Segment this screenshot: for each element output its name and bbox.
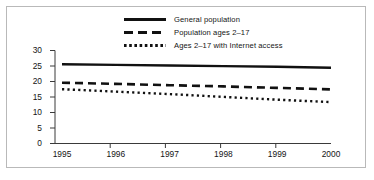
- x-tick-label-1996: 1996: [99, 149, 133, 159]
- x-tick-label-1997: 1997: [153, 149, 187, 159]
- series-population-ages-2-17-line: [62, 83, 331, 90]
- x-tick-label-2000: 2000: [314, 149, 348, 159]
- y-tick-label-5: 5: [22, 123, 42, 133]
- dotted-line-swatch: [124, 40, 166, 51]
- legend-label-population-ages-2-17: Population ages 2–17: [174, 28, 249, 37]
- y-tick-label-0: 0: [22, 138, 42, 148]
- y-tick-label-15: 15: [22, 92, 42, 102]
- y-tick-label-10: 10: [22, 107, 42, 117]
- y-tick-label-20: 20: [22, 76, 42, 86]
- y-tick-label-25: 25: [22, 61, 42, 71]
- x-tick-label-1998: 1998: [206, 149, 240, 159]
- chart-figure: 30 25 20 15 10 5 0 1995 1996 1997 1998 1…: [0, 0, 374, 180]
- y-tick-label-30: 30: [22, 45, 42, 55]
- dashed-line-swatch: [124, 27, 166, 38]
- solid-line-swatch: [124, 14, 166, 25]
- series-general-population-line: [62, 64, 331, 67]
- legend-label-general-population: General population: [174, 15, 240, 24]
- series-ages-2-17-internet-access-line: [62, 89, 331, 102]
- x-tick-label-1995: 1995: [45, 149, 79, 159]
- legend-item-ages-2-17-internet-access: Ages 2–17 with Internet access: [124, 39, 334, 51]
- legend-item-general-population: General population: [124, 13, 334, 25]
- y-tick-marks: [50, 51, 55, 144]
- x-tick-marks: [110, 144, 276, 149]
- legend-label-ages-2-17-internet-access: Ages 2–17 with Internet access: [174, 41, 283, 50]
- x-tick-label-1999: 1999: [260, 149, 294, 159]
- legend-item-population-ages-2-17: Population ages 2–17: [124, 26, 334, 38]
- chart-legend: General population Population ages 2–17 …: [124, 13, 334, 52]
